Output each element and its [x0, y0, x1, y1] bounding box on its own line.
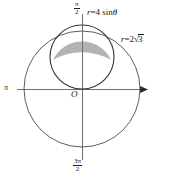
axis-label-pi-over-two: π 2	[74, 1, 80, 16]
axis-label-three-pi-over-two: 3π 2	[73, 158, 82, 173]
origin-label: O	[71, 90, 78, 99]
curve-label-large-circle: r=2√3	[121, 34, 144, 44]
curve-label-small-circle: r=4 sinθ	[87, 8, 117, 17]
axis-right-arrow-icon	[140, 86, 148, 93]
curve-label-small-circle-body: 4 sin	[96, 7, 113, 17]
curve-label-large-circle-radicand: 3	[138, 34, 144, 44]
axis-label-three-pi-over-two-denominator: 2	[73, 166, 82, 173]
curve-label-small-circle-theta: θ	[113, 7, 117, 17]
axis-label-pi: π	[4, 84, 8, 92]
axis-label-pi-over-two-denominator: 2	[74, 9, 80, 16]
polar-plot-figure	[0, 0, 169, 175]
